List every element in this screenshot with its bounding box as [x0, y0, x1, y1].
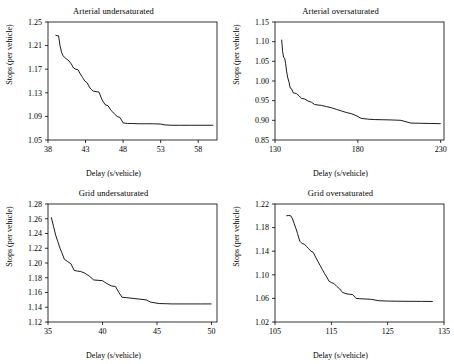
y-tick-label: 1.28	[28, 200, 42, 209]
chart-panel-arterial-undersaturated: Arterial undersaturated 1.051.091.131.17…	[0, 0, 227, 182]
y-tick-label: 1.26	[28, 215, 42, 224]
figure-container: Arterial undersaturated 1.051.091.131.17…	[0, 0, 454, 364]
y-tick-label: 1.20	[28, 259, 42, 268]
plot-area: 1.021.061.101.141.181.22105115125135	[227, 182, 454, 364]
y-tick-label: 1.02	[255, 318, 269, 327]
y-tick-label: 1.05	[255, 57, 269, 66]
x-tick-label: 53	[157, 145, 165, 154]
x-tick-label: 58	[194, 145, 202, 154]
y-axis-label: Stops (per vehicle)	[5, 182, 14, 292]
y-tick-label: 1.14	[28, 303, 42, 312]
y-tick-label: 1.21	[28, 41, 42, 50]
data-series-line	[51, 217, 211, 304]
x-tick-label: 135	[438, 327, 450, 336]
x-tick-label: 105	[269, 327, 281, 336]
y-tick-label: 1.22	[28, 244, 42, 253]
plot-frame	[275, 22, 444, 140]
data-series-line	[56, 35, 214, 125]
x-tick-label: 115	[325, 327, 337, 336]
chart-panel-arterial-oversaturated: Arterial oversaturated 0.850.900.951.001…	[227, 0, 454, 182]
y-tick-label: 1.05	[28, 136, 42, 145]
y-axis-label: Stops (per vehicle)	[232, 0, 241, 110]
y-tick-label: 0.95	[255, 96, 269, 105]
y-tick-label: 1.13	[28, 89, 42, 98]
y-tick-label: 1.25	[28, 18, 42, 27]
x-tick-label: 38	[44, 145, 52, 154]
x-tick-label: 130	[269, 145, 281, 154]
y-tick-label: 1.09	[28, 112, 42, 121]
x-tick-label: 230	[435, 145, 447, 154]
x-tick-label: 45	[153, 327, 161, 336]
y-tick-label: 1.17	[28, 65, 42, 74]
y-tick-label: 1.00	[255, 77, 269, 86]
plot-frame	[48, 22, 217, 140]
x-tick-label: 48	[119, 145, 127, 154]
plot-area: 0.850.900.951.001.051.101.15130180230	[227, 0, 454, 182]
y-tick-label: 1.14	[255, 247, 269, 256]
plot-frame	[275, 204, 444, 322]
plot-area: 1.121.141.161.181.201.221.241.261.283540…	[0, 182, 227, 364]
x-tick-label: 43	[82, 145, 90, 154]
plot-area: 1.051.091.131.171.211.253843485358	[0, 0, 227, 182]
x-tick-label: 35	[44, 327, 52, 336]
y-tick-label: 1.16	[28, 288, 42, 297]
x-axis-label: Delay (s/vehicle)	[227, 351, 454, 360]
y-tick-label: 0.90	[255, 116, 269, 125]
y-tick-label: 1.12	[28, 318, 42, 327]
x-axis-label: Delay (s/vehicle)	[0, 351, 227, 360]
x-tick-label: 125	[382, 327, 394, 336]
y-tick-label: 1.18	[255, 223, 269, 232]
y-tick-label: 1.22	[255, 200, 269, 209]
chart-panel-grid-undersaturated: Grid undersaturated 1.121.141.161.181.20…	[0, 182, 227, 364]
chart-panel-grid-oversaturated: Grid oversaturated 1.021.061.101.141.181…	[227, 182, 454, 364]
x-tick-label: 180	[352, 145, 364, 154]
y-tick-label: 1.06	[255, 294, 269, 303]
y-axis-label: Stops (per vehicle)	[5, 0, 14, 110]
x-axis-label: Delay (s/vehicle)	[227, 169, 454, 178]
y-tick-label: 1.10	[255, 271, 269, 280]
x-axis-label: Delay (s/vehicle)	[0, 169, 227, 178]
y-tick-label: 1.24	[28, 229, 42, 238]
y-axis-label: Stops (per vehicle)	[232, 182, 241, 292]
x-tick-label: 50	[208, 327, 216, 336]
data-series-line	[286, 216, 432, 302]
y-tick-label: 1.15	[255, 18, 269, 27]
data-series-line	[282, 40, 441, 124]
y-tick-label: 1.10	[255, 37, 269, 46]
y-tick-label: 0.85	[255, 136, 269, 145]
y-tick-label: 1.18	[28, 274, 42, 283]
x-tick-label: 40	[99, 327, 107, 336]
